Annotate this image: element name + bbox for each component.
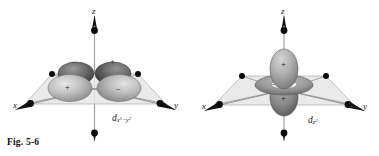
ligand-dot-z-bottom — [281, 130, 288, 137]
ligand-dot-y — [345, 101, 352, 108]
orbital-label-dx2y2: dx2−y2 — [112, 114, 131, 124]
y-axis-label: y — [363, 102, 367, 111]
dx2y2-artwork — [0, 0, 190, 156]
back-left-lobe-sign: − — [71, 58, 76, 67]
ligand-dot-z-top — [281, 27, 288, 34]
ligand-dot-back-right — [135, 71, 141, 77]
orbital-diagram-dz2: x y z + + − dz2 — [190, 0, 379, 156]
ligand-dot-z-top — [91, 27, 98, 34]
x-axis-label: x — [13, 101, 17, 110]
orbital-sub-mid: −y — [122, 116, 129, 123]
orbital-label-dz2: dz2 — [308, 116, 317, 126]
dz2-artwork — [190, 0, 379, 156]
ligand-dot-y — [157, 100, 164, 107]
orbital-sub-exp2: 2 — [129, 116, 131, 121]
top-lobe-sign: + — [281, 60, 286, 69]
z-axis-label: z — [281, 7, 285, 16]
figure-caption: Fig. 5-6 — [7, 137, 39, 147]
torus-sign: − — [271, 80, 276, 89]
ligand-dot-z-bottom — [91, 130, 98, 137]
front-left-lobe-sign: + — [65, 83, 70, 92]
ligand-dot-x — [27, 100, 34, 107]
ligand-dot-back-left — [49, 71, 55, 77]
ligand-dot-back-right — [323, 73, 329, 79]
bottom-lobe-sign: + — [281, 94, 286, 103]
figure-canvas: x y z − + + − dx2−y2 — [0, 0, 379, 156]
back-right-lobe-sign: + — [110, 57, 115, 66]
front-left-lobe — [48, 75, 92, 102]
y-axis-label: y — [174, 101, 178, 110]
ligand-dot-x — [216, 101, 223, 108]
orbital-sub-exp1: 2 — [315, 118, 317, 123]
ligand-dot-back-left — [239, 73, 245, 79]
x-axis-label: x — [202, 102, 206, 111]
orbital-diagram-dx2y2: x y z − + + − dx2−y2 — [0, 0, 190, 156]
front-right-lobe-sign: − — [116, 85, 121, 94]
z-axis-label: z — [92, 7, 96, 16]
